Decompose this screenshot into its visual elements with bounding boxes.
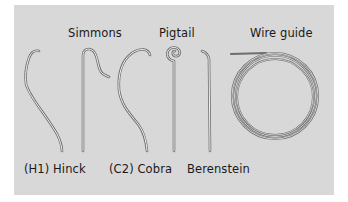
pigtail-catheter-icon: [167, 47, 180, 151]
label-wire-guide: Wire guide: [250, 26, 313, 40]
wire-guide-coil-icon: [231, 53, 318, 139]
label-hinck: (H1) Hinck: [24, 162, 86, 176]
label-berenstein: Berenstein: [187, 162, 250, 176]
label-pigtail: Pigtail: [159, 26, 195, 40]
hinck-catheter-icon: [26, 51, 62, 151]
simmons-catheter-icon: [83, 49, 109, 151]
cobra-catheter-icon: [119, 49, 150, 151]
label-cobra: (C2) Cobra: [109, 162, 172, 176]
label-simmons: Simmons: [68, 26, 122, 40]
berenstein-catheter-icon: [202, 51, 210, 151]
